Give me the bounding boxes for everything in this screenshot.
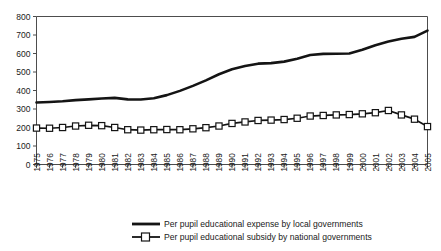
data-point-marker	[86, 122, 92, 128]
plot-frame	[37, 17, 428, 165]
x-tick-label: 1998	[332, 153, 341, 172]
chart-canvas: 8007006005004003002001000 19751976197719…	[0, 0, 441, 251]
y-tick-label: 500	[16, 67, 30, 77]
data-point-marker	[242, 119, 248, 125]
data-point-marker	[281, 116, 287, 122]
x-tick-label: 1989	[215, 153, 224, 172]
data-point-marker	[307, 113, 313, 119]
data-point-marker	[229, 120, 235, 126]
data-point-marker	[411, 116, 417, 122]
data-point-marker	[99, 123, 105, 129]
x-tick-label: 1993	[267, 153, 276, 172]
data-point-marker	[190, 126, 196, 132]
legend-marker-square	[142, 233, 150, 241]
x-tick-label: 2000	[359, 153, 368, 172]
x-tick-label: 1985	[163, 153, 172, 172]
x-tick-label: 1992	[254, 153, 263, 172]
data-point-marker	[372, 110, 378, 116]
x-axis-labels: 1975197619771978197919801981198219831984…	[33, 153, 433, 172]
x-tick-label: 1999	[346, 153, 355, 172]
y-tick-label: 600	[16, 49, 30, 59]
y-tick-label: 300	[16, 104, 30, 114]
data-point-marker	[268, 117, 274, 123]
x-tick-label: 2001	[372, 153, 381, 172]
y-tick-label: 100	[16, 141, 30, 151]
chart-figure: 8007006005004003002001000 19751976197719…	[0, 0, 441, 251]
x-tick-label: 2005	[424, 153, 433, 172]
data-point-marker	[385, 107, 391, 113]
legend-label-expense: Per pupil educational expense by local g…	[164, 219, 363, 229]
y-axis-ticks	[33, 17, 37, 165]
x-tick-label: 1997	[319, 153, 328, 172]
x-tick-label: 1977	[59, 153, 68, 172]
series-markers-subsidy	[33, 107, 430, 133]
data-point-marker	[164, 126, 170, 132]
x-tick-label: 1980	[98, 153, 107, 172]
x-tick-label: 1995	[293, 153, 302, 172]
chart-legend: Per pupil educational expense by local g…	[132, 219, 372, 242]
data-point-marker	[398, 112, 404, 118]
series-national-government-subsidy	[33, 107, 430, 133]
x-tick-label: 2002	[385, 153, 394, 172]
data-point-marker	[138, 127, 144, 133]
x-tick-label: 1988	[202, 153, 211, 172]
y-tick-label: 200	[16, 123, 30, 133]
x-tick-label: 2004	[411, 153, 420, 172]
data-point-marker	[112, 124, 118, 130]
x-tick-label: 1996	[306, 153, 315, 172]
x-tick-label: 1976	[46, 153, 55, 172]
data-point-marker	[216, 123, 222, 129]
x-tick-label: 1982	[124, 153, 133, 172]
y-axis-labels: 8007006005004003002001000	[16, 12, 30, 170]
legend-swatch-subsidy	[132, 233, 160, 241]
axis-spines	[37, 17, 428, 165]
data-point-marker	[203, 125, 209, 131]
series-local-government-expense	[37, 31, 428, 103]
data-point-marker	[59, 124, 65, 130]
data-point-marker	[255, 117, 261, 123]
x-tick-label: 1981	[111, 153, 120, 172]
data-point-marker	[46, 125, 52, 131]
y-tick-label: 400	[16, 86, 30, 96]
data-point-marker	[125, 127, 131, 133]
data-point-marker	[359, 111, 365, 117]
data-point-marker	[33, 125, 39, 131]
x-tick-label: 2003	[398, 153, 407, 172]
y-tick-label: 800	[16, 12, 30, 22]
x-tick-label: 1991	[241, 153, 250, 172]
data-point-marker	[424, 123, 430, 129]
data-point-marker	[333, 112, 339, 118]
y-tick-label: 700	[16, 30, 30, 40]
data-point-marker	[177, 127, 183, 133]
x-tick-label: 1978	[72, 153, 81, 172]
data-point-marker	[346, 111, 352, 117]
data-point-marker	[151, 127, 157, 133]
x-tick-label: 1983	[137, 153, 146, 172]
series-line-expense	[37, 31, 428, 103]
x-tick-label: 1994	[280, 153, 289, 172]
x-tick-label: 1979	[85, 153, 94, 172]
x-tick-label: 1990	[228, 153, 237, 172]
x-tick-label: 1987	[189, 153, 198, 172]
x-tick-label: 1984	[150, 153, 159, 172]
x-tick-label: 1986	[176, 153, 185, 172]
x-tick-label: 1975	[33, 153, 42, 172]
data-point-marker	[320, 112, 326, 118]
data-point-marker	[73, 123, 79, 129]
y-tick-label: 0	[26, 160, 31, 170]
legend-label-subsidy: Per pupil educational subsidy by nationa…	[164, 232, 372, 242]
data-point-marker	[294, 115, 300, 121]
